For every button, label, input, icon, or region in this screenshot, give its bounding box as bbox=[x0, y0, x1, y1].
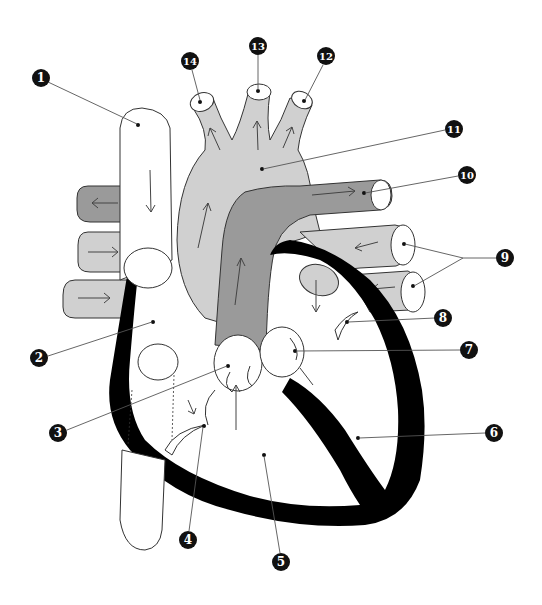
label-10: 10 bbox=[458, 166, 476, 184]
svg-text:12: 12 bbox=[319, 51, 333, 62]
svg-text:9: 9 bbox=[501, 251, 509, 265]
label-1: 1 bbox=[32, 69, 50, 87]
label-3: 3 bbox=[49, 424, 67, 442]
svg-text:10: 10 bbox=[460, 170, 474, 181]
svg-text:5: 5 bbox=[277, 555, 285, 569]
heart-diagram: 1 2 3 4 5 6 7 8 9 10 11 12 13 14 bbox=[0, 0, 542, 605]
svg-text:7: 7 bbox=[465, 343, 473, 357]
label-8: 8 bbox=[434, 309, 452, 327]
label-6: 6 bbox=[485, 424, 503, 442]
svg-text:8: 8 bbox=[439, 311, 447, 325]
label-13: 13 bbox=[249, 37, 267, 55]
svg-text:1: 1 bbox=[37, 71, 45, 85]
heart-diagram-svg: 1 2 3 4 5 6 7 8 9 10 11 12 13 14 bbox=[0, 0, 542, 605]
label-5: 5 bbox=[272, 553, 290, 571]
label-14: 14 bbox=[181, 52, 199, 70]
label-2: 2 bbox=[30, 349, 48, 367]
svg-text:2: 2 bbox=[35, 351, 43, 365]
label-4: 4 bbox=[179, 531, 197, 549]
svg-text:3: 3 bbox=[54, 426, 62, 440]
svg-text:14: 14 bbox=[183, 56, 197, 67]
svg-text:4: 4 bbox=[184, 533, 192, 547]
svg-text:13: 13 bbox=[251, 41, 265, 52]
label-7: 7 bbox=[460, 341, 478, 359]
label-11: 11 bbox=[445, 120, 463, 138]
label-12: 12 bbox=[317, 47, 335, 65]
svg-text:11: 11 bbox=[447, 124, 461, 135]
svg-text:6: 6 bbox=[490, 426, 498, 440]
label-9: 9 bbox=[496, 249, 514, 267]
